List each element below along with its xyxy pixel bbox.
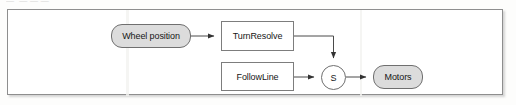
node-turn-resolve: TurnResolve bbox=[221, 21, 294, 51]
cut-off-heading-remnant: — — — — bbox=[6, 0, 126, 4]
node-wheel-position-label: Wheel position bbox=[122, 31, 180, 41]
node-motors: Motors bbox=[373, 65, 423, 89]
node-turn-resolve-label: TurnResolve bbox=[233, 31, 283, 41]
node-motors-label: Motors bbox=[385, 72, 412, 82]
node-summation: S bbox=[321, 65, 346, 90]
node-wheel-position: Wheel position bbox=[111, 24, 191, 48]
node-follow-line-label: FollowLine bbox=[236, 72, 278, 82]
node-summation-label: S bbox=[331, 73, 337, 83]
figure-frame: Wheel position TurnResolve FollowLine S … bbox=[7, 9, 503, 95]
edge-turn-resolve-to-sum bbox=[294, 36, 334, 58]
block-diagram: Wheel position TurnResolve FollowLine S … bbox=[8, 10, 504, 96]
node-follow-line: FollowLine bbox=[221, 62, 294, 91]
